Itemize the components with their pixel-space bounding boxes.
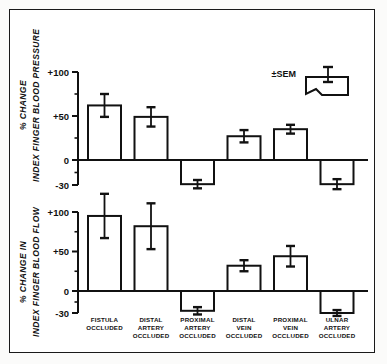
y-axis-tick-label: +50 [53,111,69,122]
category-label-line: OCCLUDED [179,332,216,339]
category-label-line: PROXIMAL [273,316,307,323]
legend-label: ±SEM [272,69,296,79]
category-label-line: OCCLUDED [226,332,263,339]
category-label-line: FISTULA [91,316,119,323]
category-label-line: OCCLUDED [133,332,170,339]
y-axis-tick-label: -30 [55,180,69,191]
category-label-line: OCCLUDED [86,324,123,331]
y-axis-tick-label: 0 [64,155,69,166]
category-axis-labels: FISTULAOCCLUDEDDISTALARTERYOCCLUDEDPROXI… [86,316,355,339]
category-label-line: ARTERY [324,324,351,331]
legend: ±SEM [272,67,348,95]
y-axis-tick-label: -30 [55,308,69,319]
bottom-panel-bar-chart: +100+500-30 [48,194,368,319]
y-axis-tick-label: +50 [53,246,69,257]
y-axis-tick-label: 0 [64,286,69,297]
category-label-line: ARTERY [184,324,211,331]
category-label-line: PROXIMAL [180,316,214,323]
category-label-line: ARTERY [138,324,165,331]
category-label-line: VEIN [236,324,252,331]
figure-root: % CHANGE INDEX FINGER BLOOD PRESSURE % C… [0,0,387,364]
category-label-line: OCCLUDED [272,332,309,339]
top-panel-bar-chart: +100+500-30 [48,67,368,191]
category-label-line: OCCLUDED [319,332,356,339]
category-label-line: ULNAR [326,316,349,323]
y-axis-tick-label: +100 [48,67,69,78]
legend-bar-icon [306,77,348,95]
category-label-line: VEIN [283,324,299,331]
y-axis-tick-label: +100 [48,207,69,218]
chart-canvas: +100+500-30 +100+500-30 ±SEM FISTULAOCCL… [0,0,387,364]
category-label-line: DISTAL [232,316,255,323]
category-label-line: DISTAL [139,316,162,323]
